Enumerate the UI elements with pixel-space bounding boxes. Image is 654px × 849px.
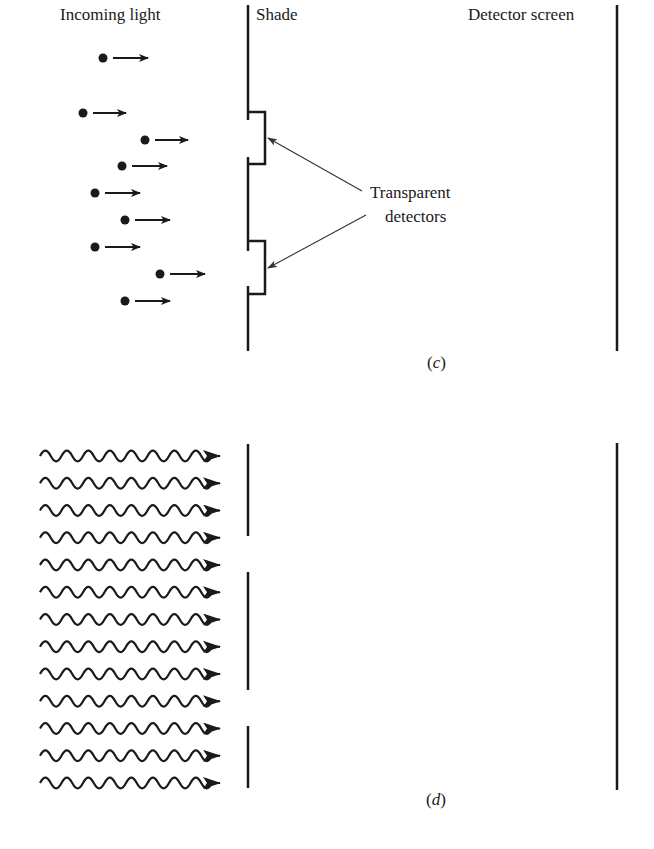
transparent-detector-2 [248, 241, 265, 294]
particle-dot-icon [141, 136, 150, 145]
transparent-detectors-label-line2: detectors [385, 207, 446, 226]
panel-c-particle-experiment: Transparent detectors (c) [79, 5, 618, 372]
wave-arrow-icon [40, 696, 220, 707]
incoming-waves [40, 451, 220, 789]
particle-dot-icon [91, 189, 100, 198]
particle [91, 189, 141, 198]
particle [121, 297, 171, 306]
panel-d-wave-experiment: (d) [40, 443, 617, 809]
particle-dot-icon [156, 270, 165, 279]
leader-arrow-detector-1 [268, 138, 362, 191]
particle-dot-icon [99, 54, 108, 63]
particle-dot-icon [121, 297, 130, 306]
wave-arrow-icon [40, 669, 220, 680]
two-slit-diagram: Incoming light Shade Detector screen Tra… [0, 0, 654, 849]
panel-label-c: (c) [427, 353, 446, 372]
wave-arrow-icon [40, 750, 220, 761]
detector-screen-label: Detector screen [468, 5, 575, 24]
particle [79, 109, 127, 118]
wave-arrow-icon [40, 505, 220, 516]
wave-arrow-icon [40, 587, 220, 598]
wave-arrow-icon [40, 723, 220, 734]
panel-label-d: (d) [426, 790, 446, 809]
particle [141, 136, 189, 145]
particle [156, 270, 206, 279]
particle-dot-icon [91, 243, 100, 252]
wave-arrow-icon [40, 778, 220, 789]
wave-arrow-icon [40, 478, 220, 489]
leader-arrow-detector-2 [268, 215, 366, 268]
particle [99, 54, 149, 63]
wave-arrow-icon [40, 451, 220, 462]
wave-arrow-icon [40, 614, 220, 625]
particle [118, 162, 168, 171]
particle-dot-icon [118, 162, 127, 171]
incoming-light-label: Incoming light [60, 5, 161, 24]
wave-arrow-icon [40, 641, 220, 652]
shade-with-detectors [248, 5, 265, 351]
particle-dot-icon [121, 216, 130, 225]
wave-arrow-icon [40, 560, 220, 571]
transparent-detectors-label-line1: Transparent [370, 183, 451, 202]
shade-label: Shade [256, 5, 298, 24]
particle-dot-icon [79, 109, 88, 118]
transparent-detector-1 [248, 112, 265, 164]
particle [91, 243, 141, 252]
incoming-particles [79, 54, 206, 306]
particle [121, 216, 171, 225]
wave-arrow-icon [40, 532, 220, 543]
